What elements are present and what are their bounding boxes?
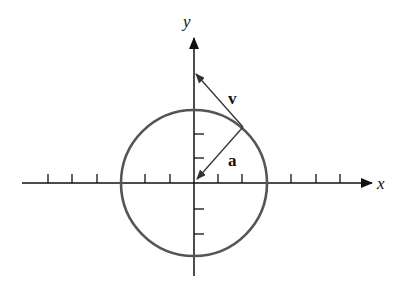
diagram-canvas: y x v a (0, 0, 407, 293)
x-axis-label: x (376, 174, 385, 193)
vector-label-v: v (228, 89, 237, 108)
vector-label-a: a (228, 151, 237, 170)
circular-motion-diagram: y x v a (0, 0, 407, 293)
y-axis-ticks (194, 134, 204, 234)
y-axis-label: y (181, 12, 191, 31)
